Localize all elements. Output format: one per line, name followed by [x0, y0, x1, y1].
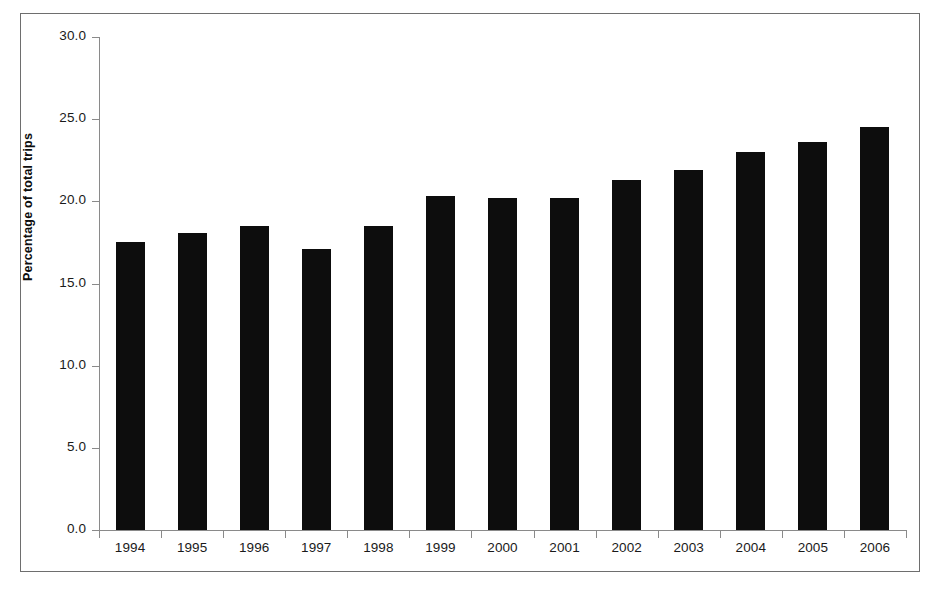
bar — [426, 196, 455, 530]
bar — [178, 233, 207, 530]
bar — [674, 170, 703, 530]
bar — [736, 152, 765, 530]
bar — [302, 249, 331, 530]
bar — [488, 198, 517, 530]
bar — [860, 127, 889, 530]
bar — [550, 198, 579, 530]
bar — [798, 142, 827, 530]
bar — [612, 180, 641, 530]
bar — [240, 226, 269, 530]
y-axis-title: Percentage of total trips — [21, 107, 35, 307]
bars-layer — [0, 0, 940, 600]
bar — [364, 226, 393, 530]
chart-figure: 30.025.020.015.010.05.00.019941995199619… — [0, 0, 940, 600]
bar — [116, 242, 145, 530]
